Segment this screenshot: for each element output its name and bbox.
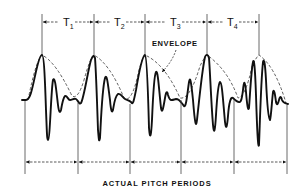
period-label-t1: T1 (63, 16, 74, 30)
period-label-t2: T2 (114, 16, 125, 30)
period-label-t4: T4 (227, 16, 238, 30)
period-label-t3: T3 (170, 16, 181, 30)
speech-waveform (22, 55, 288, 146)
caption-actual-pitch-periods: ACTUAL PITCH PERIODS (102, 179, 211, 188)
bottom-period-marker-lines (25, 100, 287, 174)
envelope-pointer-arrow (162, 50, 176, 72)
period-labels: T1T2T3T4 (63, 16, 238, 30)
envelope-label: ENVELOPE (152, 39, 198, 48)
waveform-diagram-canvas: T1T2T3T4 ENVELOPE ACTUAL PITCH PERIODS (0, 0, 302, 193)
pitch-period-diagram: T1T2T3T4 ENVELOPE ACTUAL PITCH PERIODS (0, 0, 302, 193)
